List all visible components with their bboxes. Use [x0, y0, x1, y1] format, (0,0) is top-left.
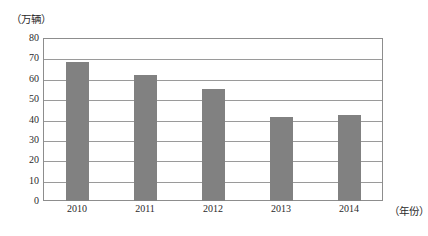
- y-axis-tick-label: 40: [13, 115, 39, 125]
- bar-2014: [338, 115, 361, 201]
- bar-chart: （万辆） 80 70 60 50 40 30 20 10 0 2010 2011…: [0, 0, 428, 236]
- y-axis-tick-label: 70: [13, 53, 39, 63]
- y-axis-tick-label: 80: [13, 33, 39, 43]
- x-axis-tick-label: 2013: [271, 203, 291, 215]
- x-axis-tick-label: 2010: [67, 203, 87, 215]
- bar-2011: [134, 75, 157, 201]
- y-axis-tick-label: 0: [13, 196, 39, 206]
- bar-series: [43, 38, 383, 201]
- x-axis-tick-labels: 2010 2011 2012 2013 2014: [43, 203, 383, 219]
- y-axis-tick-label: 50: [13, 94, 39, 104]
- y-axis-tick-label: 20: [13, 155, 39, 165]
- x-axis-tick-label: 2011: [135, 203, 155, 215]
- y-axis-tick-label: 60: [13, 74, 39, 84]
- y-axis-tick-label: 30: [13, 135, 39, 145]
- y-axis-unit-label: （万辆）: [11, 11, 51, 26]
- bar-2010: [66, 62, 89, 201]
- x-axis-tick-label: 2012: [203, 203, 223, 215]
- y-axis-tick-labels: 80 70 60 50 40 30 20 10 0: [11, 38, 39, 201]
- x-axis-unit-label: （年份）: [389, 203, 428, 218]
- y-axis-tick-label: 10: [13, 176, 39, 186]
- x-axis-tick-label: 2014: [339, 203, 359, 215]
- bar-2012: [202, 89, 225, 201]
- bar-2013: [270, 117, 293, 201]
